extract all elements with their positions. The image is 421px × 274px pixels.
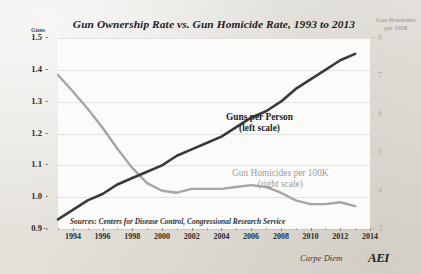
y-tick-1.1: 1.1- [16,159,48,169]
y2-tick-label: 5 [378,147,382,157]
x-tick-mark-minor [325,228,326,230]
annotation-homicides-scale: (right scale) [232,179,329,190]
tick-dash-icon: ¬ [42,223,48,233]
x-tick-mark [103,228,104,231]
x-tick-label-2012: 2012 [332,232,348,241]
tick-dash-icon: - [42,64,48,74]
y-tick-label: 1.4 [16,64,42,74]
x-tick-mark-minor [177,228,178,230]
x-tick-label-2010: 2010 [303,232,319,241]
x-tick-label-1998: 1998 [124,232,140,241]
x-tick-label-2006: 2006 [243,232,259,241]
x-tick-label-2008: 2008 [273,232,289,241]
y2-tick-8: -8 [372,32,382,42]
x-tick-mark-minor [117,228,118,230]
y-tick-1.0: 1.0- [16,191,48,201]
x-tick-mark [192,228,193,231]
y2-tick-7: -7 [372,70,382,80]
gridline [58,70,370,71]
x-tick-mark [370,228,371,231]
y-tick-label: 1.2 [16,128,42,138]
y-tick-1.2: 1.2- [16,128,48,138]
annotation-guns-per-person: Guns per Person (left scale) [226,112,293,134]
tick-dash-icon: - [42,32,48,42]
tick-dash-icon: - [42,159,48,169]
gridline [58,38,370,39]
y2-tick-4: -4 [372,185,382,195]
y-tick-0.9: 0.9¬ [16,223,48,233]
y-tick-1.4: 1.4- [16,64,48,74]
gridline [58,165,370,166]
y2-tick-5: -5 [372,147,382,157]
x-tick-mark [73,228,74,231]
attribution-carpe-diem: Carpe Diem [300,253,342,263]
aei-logo: AEI [368,250,389,266]
x-tick-mark-minor [88,228,89,230]
tick-dash-icon: - [42,96,48,106]
x-tick-label-2014: 2014 [362,232,378,241]
x-tick-mark-minor [236,228,237,230]
y-tick-label: 1.3 [16,96,42,106]
x-tick-mark [311,228,312,231]
x-tick-mark [162,228,163,231]
y2-tick-label: 6 [378,108,382,118]
y2-tick-label: 7 [378,70,382,80]
annotation-guns-scale: (left scale) [226,123,293,134]
gridline [58,102,370,103]
x-tick-label-1994: 1994 [65,232,81,241]
x-tick-mark-minor [58,228,59,230]
y-tick-label: 1.1 [16,159,42,169]
y2-tick-label: 3 [378,223,382,233]
chart-title: Gun Ownership Rate vs. Gun Homicide Rate… [58,18,370,30]
x-tick-label-1996: 1996 [95,232,111,241]
y2-tick-label: 8 [378,32,382,42]
y-tick-label: 1.0 [16,191,42,201]
chart-container: Gun Ownership Rate vs. Gun Homicide Rate… [0,0,421,274]
x-tick-mark [132,228,133,231]
gridline [58,134,370,135]
y2-axis-title: Gun Homicides per 100K [372,16,420,32]
annotation-gun-homicides: Gun Homicides per 100K (right scale) [232,168,329,190]
x-tick-mark-minor [296,228,297,230]
y2-tick-6: -6 [372,108,382,118]
gridline [58,197,370,198]
x-tick-mark-minor [207,228,208,230]
y-tick-label: 0.9 [16,223,42,233]
tick-dash-icon: - [42,128,48,138]
x-tick-mark-minor [266,228,267,230]
x-tick-label-2004: 2004 [213,232,229,241]
tick-dash-icon: - [42,191,48,201]
source-note: Sources: Centers for Disease Control, Co… [70,217,285,226]
gridline [58,229,370,230]
x-tick-label-2002: 2002 [184,232,200,241]
y2-tick-label: 4 [378,185,382,195]
x-tick-mark-minor [147,228,148,230]
y-tick-1.5: 1.5- [16,32,48,42]
annotation-guns-title: Guns per Person [226,112,293,123]
x-tick-mark-minor [355,228,356,230]
annotation-homicides-title: Gun Homicides per 100K [232,168,329,179]
x-tick-mark [340,228,341,231]
x-tick-mark [251,228,252,231]
x-tick-mark [281,228,282,231]
y-tick-1.3: 1.3- [16,96,48,106]
y-tick-label: 1.5 [16,32,42,42]
x-tick-label-2000: 2000 [154,232,170,241]
x-tick-mark [221,228,222,231]
